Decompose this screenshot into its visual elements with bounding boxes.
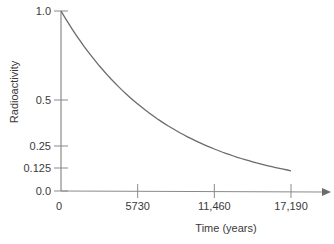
decay-curve bbox=[61, 11, 291, 171]
y-tick-label: 0.5 bbox=[36, 94, 51, 106]
x-tick-label: 17,190 bbox=[274, 200, 308, 212]
y-tick-label: 1.0 bbox=[36, 5, 51, 17]
y-tick-label: 0.125 bbox=[23, 162, 51, 174]
y-tick-label: 0.25 bbox=[30, 140, 51, 152]
x-ticks: 0573011,46017,190 bbox=[56, 184, 308, 212]
x-axis-title: Time (years) bbox=[195, 222, 256, 234]
y-tick-label: 0.0 bbox=[36, 185, 51, 197]
x-tick-label: 11,460 bbox=[198, 200, 231, 212]
y-axis-title: Radioactivity bbox=[8, 60, 20, 123]
x-axis-arrow-icon bbox=[322, 188, 331, 196]
x-tick-label: 0 bbox=[56, 200, 62, 212]
decay-chart: 0.00.1250.250.51.0 0573011,46017,190 Tim… bbox=[0, 0, 334, 244]
axes bbox=[61, 11, 331, 196]
x-axis bbox=[61, 191, 322, 192]
x-tick-label: 5730 bbox=[125, 200, 149, 212]
